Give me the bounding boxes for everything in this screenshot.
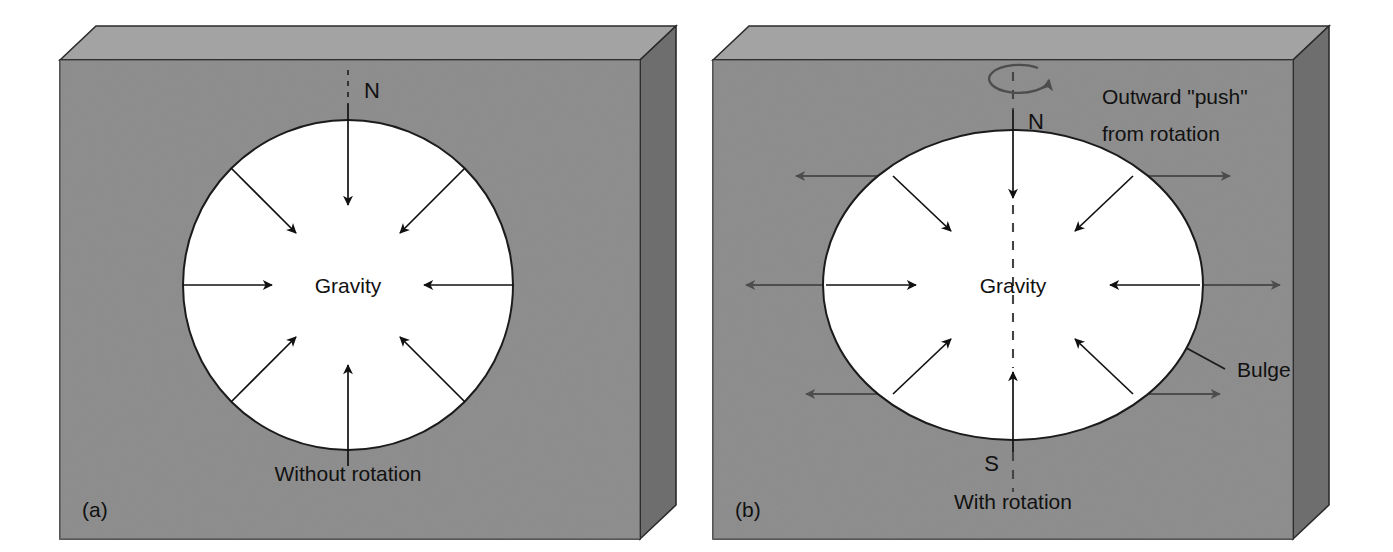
pole-label-south-b: S [984,451,999,476]
pole-label-north-b: N [1028,109,1044,134]
panel-label-a: (a) [82,498,108,521]
bulge-label: Bulge [1237,358,1291,381]
block-b-top-face [713,26,1329,60]
center-label-b: Gravity [980,274,1047,297]
block-a-side-face [640,26,676,539]
outward-push-line-2: from rotation [1102,122,1220,145]
panel-label-b: (b) [735,498,761,521]
figure-root: N Gravity Without rotation (a) [0,0,1393,552]
center-label-a: Gravity [315,274,382,297]
pole-label-north-a: N [364,78,380,103]
caption-a: Without rotation [274,462,421,485]
outward-push-line-1: Outward "push" [1102,85,1248,108]
block-b-side-face [1293,26,1329,539]
panel-a: N Gravity Without rotation (a) [60,26,676,539]
diagram-svg: N Gravity Without rotation (a) [0,0,1393,552]
block-a-top-face [60,26,676,60]
caption-b: With rotation [954,490,1072,513]
panel-b: N S Gravity Outward "push" from rotation… [713,26,1329,539]
